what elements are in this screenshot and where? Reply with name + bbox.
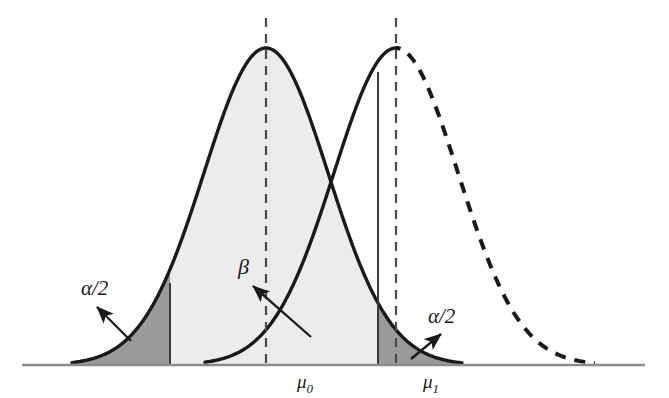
mu1-label-subscript: 1 <box>433 381 440 396</box>
mu0-label-base: μ <box>296 371 307 392</box>
mu0-label-subscript: 0 <box>307 381 314 396</box>
beta-label: β <box>237 254 249 279</box>
svg-text:μ0: μ0 <box>296 371 314 396</box>
hypothesis-test-error-diagram: α/2 β α/2 μ0 μ1 <box>0 0 669 398</box>
svg-text:μ1: μ1 <box>422 371 439 396</box>
alpha-right-label: α/2 <box>428 304 456 328</box>
alpha-left-label: α/2 <box>81 276 109 300</box>
mu0-axis-label: μ0 <box>296 371 314 396</box>
alpha-left-annotation: α/2 <box>81 276 131 341</box>
alpha-left-arrow <box>97 307 131 341</box>
mu1-label-base: μ <box>422 371 433 392</box>
beta-region <box>72 48 462 365</box>
mu1-axis-label: μ1 <box>422 371 439 396</box>
